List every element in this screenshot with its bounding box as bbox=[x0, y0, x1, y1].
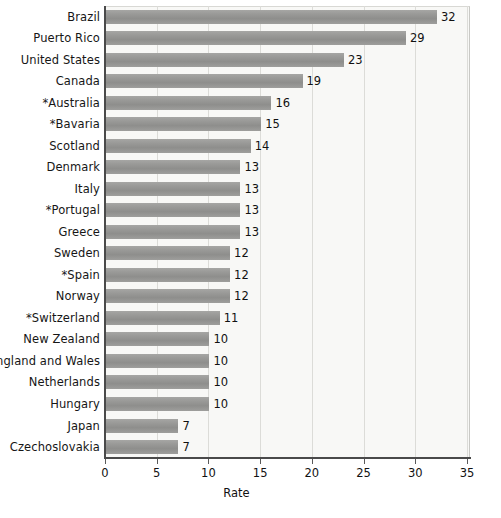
category-label: Norway bbox=[56, 289, 100, 303]
bar-chart: Brazil32Puerto Rico29United States23Cana… bbox=[0, 0, 501, 518]
bar bbox=[106, 268, 230, 282]
x-tick-label: 25 bbox=[356, 466, 371, 480]
bar bbox=[106, 246, 230, 260]
bar-row: Norway12 bbox=[0, 286, 501, 307]
bar-value-label: 29 bbox=[410, 31, 425, 45]
category-label: *Portugal bbox=[46, 203, 100, 217]
x-axis-title: Rate bbox=[0, 486, 501, 500]
bar-value-label: 10 bbox=[213, 397, 228, 411]
bar-row: *Bavaria15 bbox=[0, 114, 501, 135]
bar-row: Sweden12 bbox=[0, 243, 501, 264]
bar-value-label: 7 bbox=[182, 440, 189, 454]
category-label: Puerto Rico bbox=[33, 31, 100, 45]
x-axis-title-text: Rate bbox=[223, 486, 249, 500]
bar bbox=[106, 182, 240, 196]
bar bbox=[106, 332, 209, 346]
bar-value-label: 10 bbox=[213, 332, 228, 346]
bar-row: *Australia16 bbox=[0, 92, 501, 113]
category-label: Hungary bbox=[50, 397, 100, 411]
bar-value-label: 32 bbox=[441, 10, 456, 24]
bar bbox=[106, 160, 240, 174]
x-tick-mark bbox=[312, 459, 313, 464]
bar-value-label: 13 bbox=[244, 225, 259, 239]
bar-value-label: 11 bbox=[224, 311, 239, 325]
bar bbox=[106, 354, 209, 368]
bar bbox=[106, 31, 406, 45]
x-tick-label: 10 bbox=[201, 466, 216, 480]
bar-row: Italy13 bbox=[0, 178, 501, 199]
bar-row: *Portugal13 bbox=[0, 200, 501, 221]
bar-row: Brazil32 bbox=[0, 6, 501, 27]
category-label: New Zealand bbox=[23, 332, 100, 346]
bar bbox=[106, 397, 209, 411]
category-label: United States bbox=[21, 53, 100, 67]
bar-value-label: 16 bbox=[275, 96, 290, 110]
bar-row: Czechoslovakia7 bbox=[0, 436, 501, 457]
x-tick-mark bbox=[105, 459, 106, 464]
bar-value-label: 13 bbox=[244, 182, 259, 196]
bar-row: England and Wales10 bbox=[0, 350, 501, 371]
bar-value-label: 13 bbox=[244, 203, 259, 217]
bar-value-label: 13 bbox=[244, 160, 259, 174]
bar-row: Greece13 bbox=[0, 221, 501, 242]
category-label: England and Wales bbox=[0, 354, 100, 368]
x-tick-label: 35 bbox=[460, 466, 475, 480]
category-label: Japan bbox=[67, 419, 100, 433]
bar bbox=[106, 419, 178, 433]
bar bbox=[106, 117, 261, 131]
x-tick-label: 20 bbox=[305, 466, 320, 480]
bar-row: Netherlands10 bbox=[0, 372, 501, 393]
category-label: *Switzerland bbox=[26, 311, 100, 325]
category-label: Netherlands bbox=[29, 375, 100, 389]
bar-row: United States23 bbox=[0, 49, 501, 70]
x-tick-mark bbox=[364, 459, 365, 464]
bar-value-label: 10 bbox=[213, 375, 228, 389]
bar-rows: Brazil32Puerto Rico29United States23Cana… bbox=[0, 6, 501, 458]
bar bbox=[106, 440, 178, 454]
category-label: Czechoslovakia bbox=[10, 440, 100, 454]
x-tick-label: 30 bbox=[408, 466, 423, 480]
bar bbox=[106, 375, 209, 389]
bar bbox=[106, 10, 437, 24]
category-label: Sweden bbox=[54, 246, 100, 260]
x-tick-label: 5 bbox=[153, 466, 160, 480]
category-label: Italy bbox=[75, 182, 100, 196]
bar-value-label: 19 bbox=[307, 74, 322, 88]
bar-row: Denmark13 bbox=[0, 157, 501, 178]
bar-row: Japan7 bbox=[0, 415, 501, 436]
bar-row: *Switzerland11 bbox=[0, 307, 501, 328]
bar-value-label: 7 bbox=[182, 419, 189, 433]
bar bbox=[106, 74, 303, 88]
bar bbox=[106, 53, 344, 67]
bar-row: Puerto Rico29 bbox=[0, 28, 501, 49]
bar-row: *Spain12 bbox=[0, 264, 501, 285]
bar bbox=[106, 311, 220, 325]
x-tick-mark bbox=[157, 459, 158, 464]
bar bbox=[106, 139, 251, 153]
bar bbox=[106, 289, 230, 303]
bar-value-label: 14 bbox=[255, 139, 270, 153]
bar bbox=[106, 96, 271, 110]
bar-value-label: 12 bbox=[234, 246, 249, 260]
bar-value-label: 12 bbox=[234, 289, 249, 303]
x-tick-mark bbox=[467, 459, 468, 464]
category-label: Denmark bbox=[46, 160, 100, 174]
category-label: Brazil bbox=[67, 10, 100, 24]
category-label: *Bavaria bbox=[50, 117, 100, 131]
bar-row: Scotland14 bbox=[0, 135, 501, 156]
x-tick-mark bbox=[208, 459, 209, 464]
category-label: Scotland bbox=[49, 139, 100, 153]
x-tick-label: 0 bbox=[101, 466, 108, 480]
bar-row: Canada19 bbox=[0, 71, 501, 92]
bar-row: Hungary10 bbox=[0, 393, 501, 414]
bar-value-label: 12 bbox=[234, 268, 249, 282]
category-label: Greece bbox=[58, 225, 100, 239]
bar-row: New Zealand10 bbox=[0, 329, 501, 350]
x-tick-mark bbox=[260, 459, 261, 464]
category-label: *Spain bbox=[62, 268, 100, 282]
bar-value-label: 10 bbox=[213, 354, 228, 368]
category-label: Canada bbox=[56, 74, 100, 88]
bar bbox=[106, 203, 240, 217]
bar-value-label: 23 bbox=[348, 53, 363, 67]
category-label: *Australia bbox=[42, 96, 100, 110]
